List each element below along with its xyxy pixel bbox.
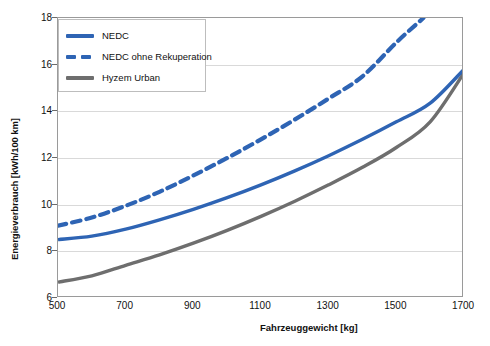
- legend-swatch-solid-blue-icon: [64, 31, 96, 41]
- legend-label-nedc: NEDC: [102, 31, 129, 41]
- legend-item-hyzem-urban: Hyzem Urban: [64, 67, 200, 88]
- chart-figure: Energieverbrauch [kWh/100 km] 6810121416…: [0, 0, 490, 346]
- x-tick-label: 500: [49, 300, 66, 311]
- legend-label-hyzem-urban: Hyzem Urban: [102, 73, 160, 83]
- chart-legend: NEDC NEDC ohne Rekuperation Hyzem Urban: [58, 19, 206, 92]
- x-tick-label: 1500: [384, 300, 406, 311]
- legend-swatch-solid-gray-icon: [64, 73, 96, 83]
- series-line-hyzem-urban: [58, 73, 463, 282]
- x-tick-label: 1700: [452, 300, 474, 311]
- x-tick-label: 700: [116, 300, 133, 311]
- legend-label-nedc-ohne-rekuperation: NEDC ohne Rekuperation: [102, 52, 212, 62]
- x-tick-label: 1300: [317, 300, 339, 311]
- x-tick-label: 900: [184, 300, 201, 311]
- series-line-nedc: [58, 69, 463, 239]
- x-tick-label: 1100: [249, 300, 271, 311]
- legend-swatch-dashed-blue-icon: [64, 52, 96, 62]
- legend-item-nedc: NEDC: [64, 25, 200, 46]
- legend-item-nedc-ohne-rekuperation: NEDC ohne Rekuperation: [64, 46, 200, 67]
- x-axis-title: Fahrzeuggewicht [kg]: [260, 322, 358, 333]
